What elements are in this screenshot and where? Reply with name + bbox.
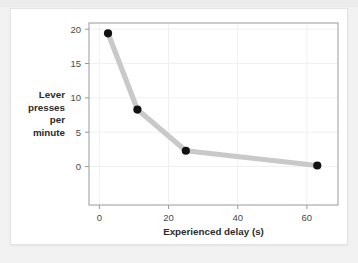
y-tick-label: 5 <box>76 127 81 138</box>
y-axis-title: Leverpressesperminute <box>28 89 66 137</box>
y-axis-tick-labels: 05101520 <box>70 24 81 172</box>
data-point-marker <box>313 161 321 169</box>
x-tick-label: 20 <box>163 212 174 223</box>
plot-frame <box>89 23 338 205</box>
y-axis-title-line: Lever <box>39 89 65 100</box>
y-tick-label: 20 <box>70 24 81 35</box>
x-tick-label: 40 <box>232 212 243 223</box>
data-point-marker <box>182 147 190 155</box>
y-axis-title-line: per <box>50 114 65 125</box>
y-axis-title-line: minute <box>33 127 66 138</box>
data-point-marker <box>133 105 141 113</box>
x-axis-ticks <box>99 205 307 209</box>
x-tick-label: 0 <box>97 212 102 223</box>
data-point-marker <box>104 29 112 37</box>
data-series-line <box>108 33 317 165</box>
y-tick-label: 15 <box>70 58 81 69</box>
y-axis-ticks <box>85 29 89 166</box>
y-axis-title-line: presses <box>28 102 66 113</box>
chart-plot-area: 05101520 0204060 Leverpressesperminute E… <box>11 9 349 246</box>
top-background-band <box>0 0 358 7</box>
x-tick-label: 60 <box>302 212 313 223</box>
x-axis-tick-labels: 0204060 <box>97 212 312 223</box>
data-point-markers <box>104 29 321 169</box>
x-axis-title: Experienced delay (s) <box>163 226 264 237</box>
y-tick-label: 0 <box>76 161 81 172</box>
gridlines-vertical <box>99 24 307 204</box>
figure-card: 05101520 0204060 Leverpressesperminute E… <box>10 8 348 245</box>
line-chart-svg: 05101520 0204060 Leverpressesperminute E… <box>11 9 349 246</box>
y-tick-label: 10 <box>70 92 81 103</box>
gridlines-horizontal <box>90 29 337 166</box>
